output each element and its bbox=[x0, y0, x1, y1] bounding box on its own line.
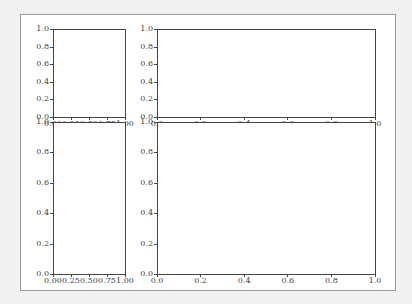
x-tick-label: 0.6 bbox=[276, 277, 300, 285]
y-tick-label: 0.2 bbox=[27, 240, 49, 248]
y-tick-label: 0.4 bbox=[27, 209, 49, 217]
axes-top-right bbox=[157, 29, 376, 118]
x-tick-label: 0.8 bbox=[319, 277, 343, 285]
x-tick-label: 0.2 bbox=[189, 277, 213, 285]
y-tick-label: 0.4 bbox=[27, 78, 49, 86]
y-tick-label: 0.4 bbox=[131, 78, 153, 86]
x-tick-label: 1.0 bbox=[363, 277, 387, 285]
axes-bottom-left bbox=[53, 122, 126, 275]
y-tick-label: 0.4 bbox=[131, 209, 153, 217]
y-tick-label: 1.0 bbox=[131, 118, 153, 126]
y-tick-label: 0.8 bbox=[131, 43, 153, 51]
y-tick-label: 1.0 bbox=[27, 118, 49, 126]
y-tick-label: 0.8 bbox=[131, 148, 153, 156]
y-tick-label: 0.2 bbox=[131, 240, 153, 248]
x-tick-label: 0.4 bbox=[232, 277, 256, 285]
x-tick-label: 0.0 bbox=[145, 277, 169, 285]
y-tick-label: 0.2 bbox=[131, 95, 153, 103]
y-tick-label: 0.2 bbox=[27, 95, 49, 103]
x-tick-label: 1.00 bbox=[113, 277, 137, 285]
y-tick-label: 0.6 bbox=[131, 179, 153, 187]
axes-top-left bbox=[53, 29, 126, 118]
y-tick-label: 1.0 bbox=[131, 25, 153, 33]
y-tick-label: 0.8 bbox=[27, 148, 49, 156]
axes-bottom-right bbox=[157, 122, 376, 275]
y-tick-label: 0.6 bbox=[131, 60, 153, 68]
y-tick-label: 1.0 bbox=[27, 25, 49, 33]
y-tick-label: 0.8 bbox=[27, 43, 49, 51]
figure-canvas: 0.00.20.40.60.81.00.000.250.500.751.000.… bbox=[20, 14, 396, 291]
y-tick-label: 0.6 bbox=[27, 179, 49, 187]
y-tick-label: 0.6 bbox=[27, 60, 49, 68]
